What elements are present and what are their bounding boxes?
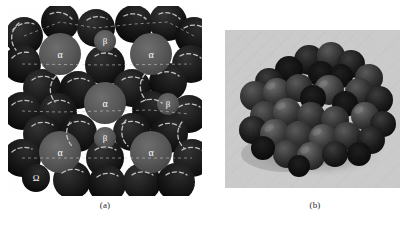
panel-a-schematic: αααααβββΩ (0, 0, 210, 228)
panel-b-photograph: (b) (210, 0, 420, 228)
sphere-packing-diagram: αααααβββΩ (8, 6, 202, 196)
diagram-grain-overlay (8, 6, 202, 196)
photo-grain-overlay (225, 30, 400, 188)
sphere-packing-svg: αααααβββΩ (8, 6, 202, 196)
ball-model-photograph (225, 30, 400, 188)
panel-b-caption: (b) (210, 200, 420, 210)
figure-root: αααααβββΩ (0, 0, 420, 228)
ball-model-photo-svg (225, 30, 400, 188)
panel-a-caption: (a) (0, 200, 210, 210)
